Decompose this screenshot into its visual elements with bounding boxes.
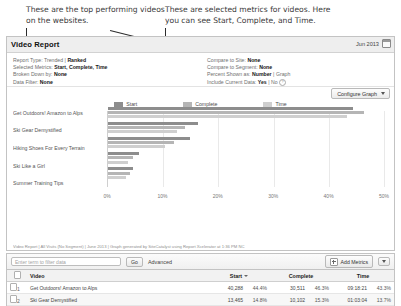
setting-compare-to-site[interactable]: Compare to Site: None bbox=[207, 57, 290, 64]
column-header-video[interactable]: Video bbox=[27, 270, 208, 282]
calendar-icon[interactable] bbox=[382, 39, 391, 48]
setting-report-type[interactable]: Report Type: Trended | Ranked bbox=[13, 57, 107, 64]
table-header-row: Video Start Complete Time bbox=[7, 270, 394, 282]
column-header-time[interactable]: Time bbox=[332, 270, 394, 282]
row-start-value: 13,465 bbox=[228, 297, 243, 303]
x-axis-tick: 30% bbox=[268, 193, 278, 199]
row-start-percent: 44.4% bbox=[248, 285, 267, 291]
chart-bar-complete bbox=[108, 126, 185, 129]
chart-category-label: Get Outdoors! Amazon to Alps bbox=[13, 110, 105, 116]
setting-option-number[interactable]: Number bbox=[252, 71, 272, 77]
chart-category-label: Ski Like a Girl bbox=[13, 163, 105, 169]
chart-bar-complete bbox=[108, 141, 174, 144]
x-axis-tick: 0% bbox=[103, 193, 110, 199]
setting-value[interactable]: None bbox=[40, 79, 53, 85]
setting-label: Data Filter: bbox=[13, 79, 38, 85]
setting-value[interactable]: None bbox=[247, 57, 260, 63]
gridline bbox=[384, 111, 385, 187]
select-all-icon[interactable] bbox=[14, 271, 21, 279]
chart-footnote: Video Report | All Visits (No Segment) |… bbox=[13, 244, 388, 249]
row-select-icon[interactable] bbox=[10, 283, 17, 291]
setting-option-yes[interactable]: Yes bbox=[258, 79, 267, 85]
setting-option-trended[interactable]: Trended bbox=[44, 57, 63, 63]
table-row[interactable]: 1Get Outdoors! Amazon to Alps40,28844.4%… bbox=[7, 282, 394, 294]
chart-bar-group bbox=[108, 137, 384, 150]
column-header-complete[interactable]: Complete bbox=[270, 270, 332, 282]
chart-bar-group bbox=[108, 167, 384, 180]
report-settings: Report Type: Trended | Ranked Selected M… bbox=[7, 53, 394, 87]
row-time-value: 01:03:04 bbox=[348, 297, 367, 303]
chevron-down-icon bbox=[381, 92, 385, 95]
search-input[interactable]: Enter term to filter data bbox=[11, 257, 121, 266]
setting-label: Compare to Site: bbox=[207, 57, 246, 63]
row-video-name[interactable]: Get Outdoors! Amazon to Alps bbox=[27, 282, 208, 294]
chart-bar-start bbox=[108, 152, 139, 155]
chart-category-label: Ski Gear Demystified bbox=[13, 127, 105, 133]
add-metrics-button[interactable]: Add Metrics bbox=[325, 255, 373, 268]
row-complete-cell: 10,10215.3% bbox=[270, 294, 332, 306]
table-body: 1Get Outdoors! Amazon to Alps40,28844.4%… bbox=[7, 282, 394, 306]
column-header-start[interactable]: Start bbox=[208, 270, 270, 282]
video-metrics-table: Video Start Complete Time 1Get Outdoors!… bbox=[6, 269, 395, 306]
add-metrics-dropdown-button[interactable] bbox=[378, 257, 390, 266]
row-select-icon[interactable] bbox=[10, 295, 17, 303]
advanced-link[interactable]: Advanced bbox=[148, 259, 172, 265]
help-icon[interactable]: ? bbox=[279, 79, 286, 86]
setting-label: Include Current Data: bbox=[207, 79, 256, 85]
row-complete-cell: 30,51146.3% bbox=[270, 282, 332, 294]
chart-bar-time bbox=[108, 115, 347, 118]
setting-percent-shown-as[interactable]: Percent Shown as: Number | Graph bbox=[207, 71, 290, 78]
row-complete-percent: 15.3% bbox=[310, 297, 329, 303]
chart-bar-complete bbox=[108, 156, 133, 159]
row-time-cell: 01:03:0413.7% bbox=[332, 294, 394, 306]
chart-bar-complete bbox=[108, 111, 364, 114]
row-rank: 1 bbox=[17, 286, 24, 292]
setting-value[interactable]: None bbox=[259, 64, 272, 70]
chart-bar-time bbox=[108, 161, 128, 164]
setting-option-no[interactable]: No bbox=[271, 79, 278, 85]
setting-separator: | bbox=[65, 57, 66, 63]
add-metrics-label: Add Metrics bbox=[341, 259, 368, 265]
configure-graph-button[interactable]: Configure Graph bbox=[331, 88, 390, 99]
row-start-cell: 40,28844.4% bbox=[208, 282, 270, 294]
setting-separator: | bbox=[273, 71, 274, 77]
setting-compare-to-segment[interactable]: Compare to Segment: None bbox=[207, 64, 290, 71]
setting-value[interactable]: None bbox=[54, 71, 67, 77]
sort-descending-icon bbox=[244, 275, 248, 277]
setting-label: Selected Metrics: bbox=[13, 64, 53, 70]
setting-label: Broken Down by: bbox=[13, 71, 53, 77]
table-row[interactable]: 2Ski Gear Demystified13,46514.8%10,10215… bbox=[7, 294, 394, 306]
video-report-panel: Video Report Jun 2013 Report Type: Trend… bbox=[6, 36, 395, 251]
row-select-cell[interactable]: 1 bbox=[7, 282, 27, 294]
x-axis-tick: 40% bbox=[324, 193, 334, 199]
setting-option-ranked[interactable]: Ranked bbox=[67, 57, 86, 63]
table-toolbar: Enter term to filter data Go Advanced Ad… bbox=[6, 253, 395, 269]
chevron-down-icon bbox=[382, 260, 386, 263]
chart-bar-time bbox=[108, 145, 165, 148]
column-header-select[interactable] bbox=[7, 270, 27, 282]
setting-selected-metrics[interactable]: Selected Metrics: Start, Complete, Time bbox=[13, 64, 107, 71]
go-button[interactable]: Go bbox=[126, 257, 143, 267]
setting-include-current-data[interactable]: Include Current Data: Yes | No ? bbox=[207, 79, 290, 86]
setting-label: Percent Shown as: bbox=[207, 71, 251, 77]
x-axis-tick: 10% bbox=[157, 193, 167, 199]
setting-broken-down-by[interactable]: Broken Down by: None bbox=[13, 71, 107, 78]
report-settings-right: Compare to Site: None Compare to Segment… bbox=[207, 57, 290, 86]
row-video-name[interactable]: Ski Gear Demystified bbox=[27, 294, 208, 306]
report-settings-left: Report Type: Trended | Ranked Selected M… bbox=[13, 57, 107, 86]
screenshot-root: These are the top performing videos on t… bbox=[0, 0, 401, 306]
chart-category-label: Summer Training Tips bbox=[13, 180, 105, 186]
setting-value[interactable]: Start, Complete, Time bbox=[54, 64, 107, 70]
chart-category-label: Hiking Shoes For Every Terrain bbox=[13, 145, 105, 151]
annotation-top-videos: These are the top performing videos on t… bbox=[26, 5, 166, 26]
row-start-percent: 14.8% bbox=[248, 297, 267, 303]
row-complete-value: 10,102 bbox=[290, 297, 305, 303]
chart-bar-group bbox=[108, 122, 384, 135]
date-range-selector[interactable]: Jun 2013 bbox=[356, 39, 391, 48]
setting-option-graph[interactable]: Graph bbox=[276, 71, 290, 77]
configure-graph-label: Configure Graph bbox=[337, 91, 377, 97]
chart-bar-start bbox=[108, 137, 190, 140]
page-title: Video Report bbox=[11, 40, 59, 49]
setting-data-filter[interactable]: Data Filter: None bbox=[13, 79, 107, 86]
row-select-cell[interactable]: 2 bbox=[7, 294, 27, 306]
